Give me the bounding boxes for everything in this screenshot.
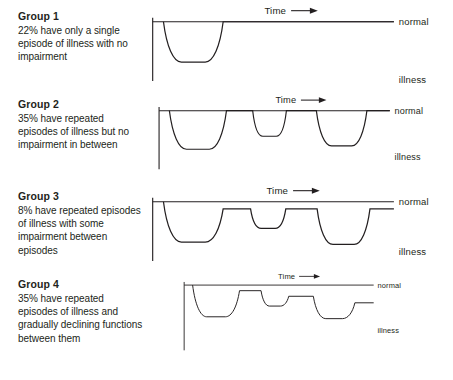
group-1-chart: Timenormalillness [146, 0, 453, 88]
group-4-time-label: Time [278, 272, 295, 281]
group-2-caption: Group 235% have repeated episodes of ill… [18, 98, 146, 152]
group-2-chart: Timenormalillness [146, 88, 453, 180]
group-2-normal-label: normal [395, 106, 424, 116]
group-4-illness-curve [193, 285, 374, 319]
group-1-illness-curve [163, 22, 393, 62]
group-4-title: Group 4 [18, 278, 146, 292]
group-3-description: 8% have repeated episodes of illness wit… [18, 204, 146, 257]
panel-group-1: Group 122% have only a single episode of… [0, 0, 453, 88]
group-2-illness-curve [169, 111, 389, 150]
group-4-caption: Group 435% have repeated episodes of ill… [18, 278, 146, 345]
group-1-time-label: Time [264, 5, 286, 16]
group-1-illness-label: illness [399, 74, 427, 85]
group-3-chart: Timenormalillness [146, 180, 453, 268]
group-2-illness-label: illness [395, 152, 422, 162]
group-2-description: 35% have repeated episodes of illness bu… [18, 112, 146, 152]
group-3-illness-label: illness [399, 246, 427, 257]
group-3-title: Group 3 [18, 190, 146, 204]
group-3-time-label: Time [266, 185, 288, 196]
group-2-title: Group 2 [18, 98, 146, 112]
illness-course-diagram: Group 122% have only a single episode of… [0, 0, 453, 380]
group-3-caption: Group 38% have repeated episodes of illn… [18, 190, 146, 257]
group-1-title: Group 1 [18, 10, 146, 24]
group-4-illness-label: illness [378, 326, 400, 335]
right-arrow-head-icon [314, 274, 320, 279]
group-1-caption: Group 122% have only a single episode of… [18, 10, 146, 64]
right-arrow-head-icon [310, 8, 318, 14]
panel-group-4: Group 435% have repeated episodes of ill… [0, 268, 453, 380]
group-1-normal-label: normal [399, 16, 429, 27]
right-arrow-head-icon [319, 97, 327, 103]
group-4-normal-label: normal [378, 281, 402, 290]
group-4-description: 35% have repeated episodes of illness an… [18, 292, 146, 345]
panel-group-3: Group 38% have repeated episodes of illn… [0, 180, 453, 268]
group-4-chart: Timenormalillness [146, 268, 453, 380]
right-arrow-head-icon [312, 188, 320, 194]
group-3-normal-label: normal [399, 196, 429, 207]
group-1-description: 22% have only a single episode of illnes… [18, 24, 146, 64]
group-3-illness-curve [163, 202, 393, 245]
panel-group-2: Group 235% have repeated episodes of ill… [0, 88, 453, 180]
group-2-time-label: Time [275, 95, 296, 105]
